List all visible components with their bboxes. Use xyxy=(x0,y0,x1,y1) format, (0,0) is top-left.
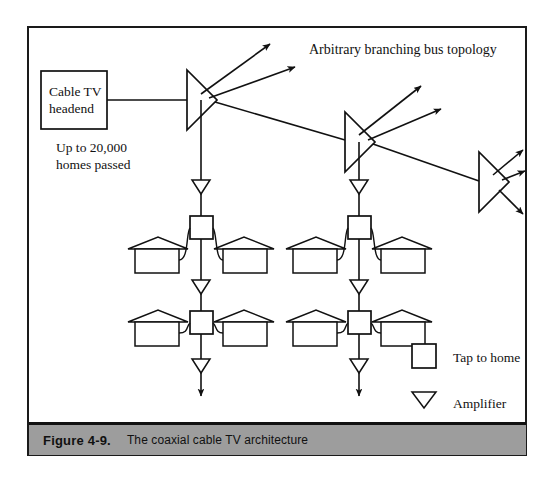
splitter1-out-arrow-1 xyxy=(201,44,270,94)
splitter2-out-arrow-2 xyxy=(368,109,441,140)
house-body-l2-left xyxy=(135,322,179,346)
legend-label-amplifier: Amplifier xyxy=(453,396,507,411)
house-roof-r2-left xyxy=(286,310,346,322)
house-body-r1-left xyxy=(293,249,337,273)
amplifier-left-mid xyxy=(192,280,210,294)
drop-cable-r2-right xyxy=(371,323,381,333)
capacity-note-line2: homes passed xyxy=(56,157,131,172)
legend-symbol-amplifier xyxy=(412,392,436,408)
headend-label-line1: Cable TV xyxy=(49,84,102,99)
tap-left-row2 xyxy=(190,311,213,334)
headend-label-line2: headend xyxy=(49,101,94,116)
house-roof-r2-right xyxy=(372,310,432,322)
house-roof-l1-right xyxy=(214,237,274,249)
house-roof-r1-right xyxy=(372,237,432,249)
house-roof-l2-right xyxy=(214,310,274,322)
legend-symbol-tap xyxy=(412,344,436,368)
legend-label-tap: Tap to home xyxy=(453,350,520,365)
tap-left-row1 xyxy=(190,216,213,239)
drop-cable-r2-left xyxy=(337,323,348,333)
trunk-splitter2-to-splitter3 xyxy=(373,144,479,181)
tap-right-row2 xyxy=(348,311,371,334)
splitter2-out-arrow-1 xyxy=(359,86,421,135)
splitter1-out-arrow-2 xyxy=(209,67,295,98)
topology-title: Arbitrary branching bus topology xyxy=(309,42,497,57)
splitter3-out-arrow-3 xyxy=(499,190,523,214)
diagram-canvas: Arbitrary branching bus topology Cable T… xyxy=(29,28,525,422)
amplifier-right-top xyxy=(350,180,368,194)
drop-cable-r1-left xyxy=(337,228,348,260)
house-body-l1-right xyxy=(223,249,267,273)
capacity-note-line1: Up to 20,000 xyxy=(56,140,127,155)
amplifier-right-bottom xyxy=(350,359,368,373)
house-body-r2-left xyxy=(293,322,337,346)
amplifier-left-top xyxy=(192,180,210,194)
house-body-r2-right xyxy=(381,322,425,346)
drop-cable-l2-left xyxy=(179,323,190,333)
drop-cable-r1-right xyxy=(371,228,381,260)
drop-cable-l1-left xyxy=(179,228,190,260)
trunk-splitter1-to-splitter2 xyxy=(215,102,345,140)
house-roof-l2-left xyxy=(128,310,188,322)
house-body-r1-right xyxy=(381,249,425,273)
figure-number: Figure 4-9. xyxy=(43,433,111,448)
splitter-3 xyxy=(479,152,509,212)
amplifier-right-mid xyxy=(350,280,368,294)
amplifier-left-bottom xyxy=(192,359,210,373)
splitter3-out-arrow-1 xyxy=(493,150,523,175)
figure-caption-bar: Figure 4-9. The coaxial cable TV archite… xyxy=(29,422,526,455)
drop-cable-l1-right xyxy=(213,228,223,260)
house-roof-r1-left xyxy=(286,237,346,249)
figure-caption-text: The coaxial cable TV architecture xyxy=(127,433,308,447)
splitter3-out-arrow-2 xyxy=(502,171,525,180)
splitter-1 xyxy=(187,70,217,130)
house-body-l2-right xyxy=(223,322,267,346)
drop-cable-l2-right xyxy=(213,323,223,333)
house-body-l1-left xyxy=(135,249,179,273)
headend-box xyxy=(41,71,107,129)
splitter-2 xyxy=(345,112,375,172)
house-roof-l1-left xyxy=(128,237,188,249)
tap-right-row1 xyxy=(348,216,371,239)
figure-container: Arbitrary branching bus topology Cable T… xyxy=(0,0,552,482)
